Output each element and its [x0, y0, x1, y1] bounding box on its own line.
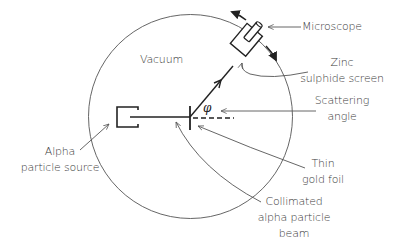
label-scattering-line1: Scattering: [308, 93, 376, 109]
label-source-line1: Alpha: [18, 144, 102, 160]
label-alpha-source: Alpha particle source: [18, 144, 102, 176]
label-zinc-screen-line2: sulphide screen: [299, 71, 385, 87]
label-beam-line2: alpha particle: [254, 210, 334, 226]
label-zinc-screen-line1: Zinc: [299, 55, 385, 71]
label-vacuum: Vacuum: [140, 52, 183, 68]
leader-beam: [176, 122, 261, 202]
label-microscope: Microscope: [302, 19, 362, 35]
rotate-arrow-left: [232, 12, 246, 20]
label-beam-line1: Collimated: [254, 194, 334, 210]
label-source-line2: particle source: [18, 160, 102, 176]
label-foil-line1: Thin: [298, 156, 348, 172]
rotate-arrow-right: [266, 46, 276, 60]
label-zinc-screen: Zinc sulphide screen: [299, 55, 385, 87]
label-scattering-line2: angle: [308, 109, 376, 125]
label-collimated-beam: Collimated alpha particle beam: [254, 194, 334, 242]
angle-symbol-phi: φ: [203, 101, 211, 115]
label-scattering-angle: Scattering angle: [308, 93, 376, 125]
label-beam-line3: beam: [254, 226, 334, 242]
microscope-icon: [230, 17, 268, 56]
label-gold-foil: Thin gold foil: [298, 156, 348, 188]
diagram-canvas: [0, 0, 401, 252]
label-foil-line2: gold foil: [298, 172, 348, 188]
scattered-ray: [190, 66, 233, 117]
leader-gold-foil: [198, 126, 305, 168]
